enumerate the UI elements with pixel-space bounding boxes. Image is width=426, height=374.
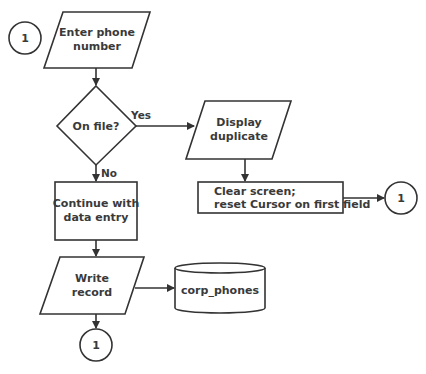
flowchart-canvas: 1 Enter phone number On file? Yes Displa… <box>0 0 426 374</box>
continue-entry-node: Continue with data entry <box>53 182 139 240</box>
on-file-label: On file? <box>73 120 120 133</box>
write-record-line1: Write <box>75 272 109 285</box>
continue-entry-line2: data entry <box>64 211 129 224</box>
corp-phones-database: corp_phones <box>175 263 265 313</box>
enter-phone-line1: Enter phone <box>59 26 135 39</box>
on-file-decision: On file? <box>57 86 136 165</box>
continue-entry-line1: Continue with <box>53 197 139 210</box>
enter-phone-node: Enter phone number <box>44 12 150 68</box>
write-record-node: Write record <box>40 257 144 314</box>
after-clear-connector-label: 1 <box>397 192 405 205</box>
display-duplicate-line1: Display <box>216 116 261 129</box>
write-record-line2: record <box>72 286 112 299</box>
corp-phones-label: corp_phones <box>181 284 259 297</box>
clear-screen-line1: Clear screen; <box>214 185 296 198</box>
start-connector-label: 1 <box>21 32 29 45</box>
start-connector: 1 <box>9 22 41 54</box>
no-label: No <box>101 167 117 179</box>
end-connector: 1 <box>80 329 112 361</box>
end-connector-label: 1 <box>92 339 100 352</box>
display-duplicate-line2: duplicate <box>210 130 268 143</box>
yes-label: Yes <box>130 109 151 121</box>
clear-screen-line2: reset Cursor on first field <box>214 198 370 211</box>
display-duplicate-node: Display duplicate <box>186 101 291 159</box>
after-clear-connector: 1 <box>385 182 417 214</box>
enter-phone-line2: number <box>73 40 121 53</box>
